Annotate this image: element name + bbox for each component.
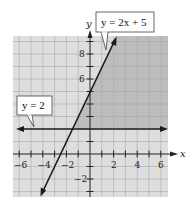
- x-tick-label: −6: [14, 160, 28, 170]
- inequality-graph: x y −6 −4 −2 2 4 6 8 6 −2: [0, 0, 194, 207]
- x-axis-label: x: [180, 148, 186, 159]
- y-tick-label: 6: [79, 74, 85, 84]
- x-tick-label: 6: [158, 160, 164, 170]
- y-axis-label: y: [85, 18, 92, 29]
- x-tick-label: −4: [38, 160, 52, 170]
- x-tick-label: −2: [61, 160, 74, 170]
- callout-label-line2: y = 2: [22, 99, 45, 111]
- y-tick-label: 8: [79, 49, 85, 59]
- y-tick-label: −2: [74, 174, 87, 184]
- x-tick-label: 2: [111, 160, 117, 170]
- callout-label-line1: y = 2x + 5: [101, 16, 147, 28]
- x-tick-label: 4: [135, 160, 141, 170]
